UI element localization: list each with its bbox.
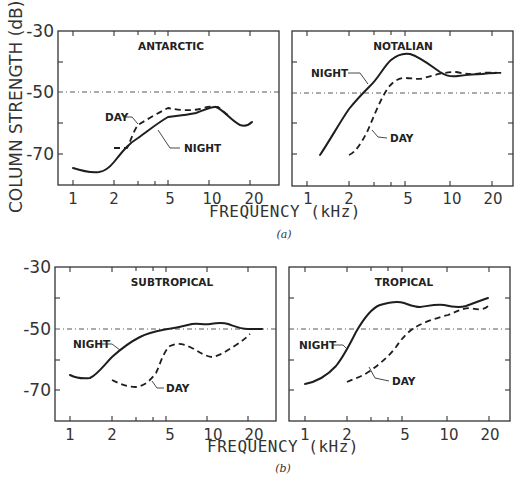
- x-tick-label: 5: [400, 426, 410, 444]
- caption-a: (a): [276, 228, 291, 241]
- night-label: NIGHT: [73, 338, 111, 350]
- x-axis-title: FREQUENCY (kHz): [209, 202, 361, 221]
- night-label: NIGHT: [299, 339, 337, 351]
- panel-tropical: 1 2 5 10 20 TROPICAL NIGHT DAY: [289, 267, 510, 444]
- panel-title: ANTARCTIC: [138, 40, 204, 52]
- x-tick-label: 1: [68, 190, 78, 208]
- day-label: DAY: [392, 375, 416, 387]
- figure-canvas: COLUMN STRENGTH (dB) -30 -50 -70 1 2 5: [0, 0, 521, 485]
- y-tick-label: -70: [23, 380, 51, 400]
- night-label: NIGHT: [311, 67, 349, 79]
- y-axis-title: COLUMN STRENGTH (dB): [6, 1, 26, 213]
- day-label: DAY: [390, 132, 414, 144]
- day-label: DAY: [105, 111, 129, 123]
- y-tick-label: -30: [26, 21, 54, 41]
- panel-title: TROPICAL: [375, 276, 434, 288]
- panel-subtropical: -30 -50 -70 1 2 5 10 20 SUBTROPICAL NIGH…: [23, 257, 276, 444]
- x-tick-label: 2: [109, 190, 119, 208]
- night-label: NIGHT: [184, 142, 222, 154]
- day-label: DAY: [166, 382, 190, 394]
- x-tick-label: 5: [165, 426, 175, 444]
- x-tick-label: 10: [442, 190, 461, 208]
- x-tick-label: 10: [439, 426, 458, 444]
- x-tick-label: 20: [483, 190, 502, 208]
- x-axis-title: FREQUENCY (kHz): [207, 437, 359, 456]
- caption-b: (b): [275, 462, 291, 475]
- x-tick-label: 1: [65, 426, 75, 444]
- night-curve: [73, 107, 252, 172]
- day-leader: [152, 381, 164, 388]
- x-tick-label: 5: [165, 190, 175, 208]
- x-tick-label: 20: [480, 426, 499, 444]
- y-ticks: [55, 298, 60, 390]
- x-tick-label: 5: [403, 190, 413, 208]
- panel-notalian: 1 2 5 10 20 NOTALIAN NIGHT DAY: [292, 31, 513, 208]
- panel-antarctic: -30 -50 -70 1 2 5 10 20 ANTARCTIC DAY NI…: [26, 21, 279, 208]
- panel-title: NOTALIAN: [373, 40, 433, 52]
- y-tick-label: -70: [26, 144, 54, 164]
- day-leader: [372, 130, 387, 138]
- night-leader: [348, 73, 368, 84]
- y-tick-label: -50: [26, 82, 54, 102]
- x-ticks: [73, 31, 250, 185]
- x-tick-label: 2: [107, 426, 117, 444]
- day-curve: [347, 306, 488, 382]
- panel-title: SUBTROPICAL: [131, 276, 214, 288]
- night-leader: [158, 130, 180, 148]
- day-leader: [369, 367, 389, 381]
- y-tick-label: -30: [23, 257, 51, 277]
- y-ticks: [58, 62, 63, 154]
- y-tick-label: -50: [23, 319, 51, 339]
